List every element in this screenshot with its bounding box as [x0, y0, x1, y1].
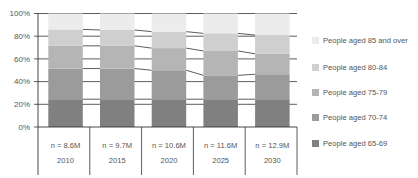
bar-2025 — [203, 14, 238, 128]
bar-2015 — [100, 14, 135, 128]
bar-segment — [48, 46, 83, 69]
bar-2010 — [48, 14, 83, 128]
bar-segment — [255, 14, 290, 36]
y-tick-label: 0% — [18, 123, 30, 132]
bar-segment — [100, 14, 135, 30]
bar-segment — [152, 48, 187, 70]
bar-segment — [152, 70, 187, 99]
x-axis-category-labels: n = 8.6M2010n = 9.7M2015n = 10.6M2020n =… — [51, 141, 290, 165]
legend-swatch — [312, 89, 319, 96]
y-tick-label: 60% — [14, 55, 30, 64]
y-tick-label: 40% — [14, 77, 30, 86]
legend-label: People aged 70-74 — [323, 113, 387, 122]
legend-swatch — [312, 37, 319, 44]
bar-segment — [203, 99, 238, 127]
bar-segment — [48, 69, 83, 100]
bar-segment — [255, 54, 290, 74]
legend: People aged 85 and over People aged 80-8… — [312, 0, 418, 178]
bar-segment — [255, 74, 290, 99]
bar-segment — [203, 14, 238, 34]
bar-2020 — [152, 14, 187, 128]
legend-item-80-84: People aged 80-84 — [312, 61, 387, 73]
bar-segment — [152, 32, 187, 48]
bar-segment — [152, 14, 187, 32]
legend-item-65-69: People aged 65-69 — [312, 137, 387, 149]
bar-segment — [203, 33, 238, 51]
bar-segment — [203, 75, 238, 99]
bar-segment — [100, 99, 135, 127]
y-axis-tick-labels: 0%20%40%60%80%100% — [10, 9, 30, 132]
bar-segment — [48, 14, 83, 30]
legend-swatch — [312, 64, 319, 71]
bar-segment — [152, 99, 187, 127]
bar-segment — [203, 51, 238, 75]
category-sublabel: n = 9.7M — [102, 141, 132, 150]
y-tick-label: 20% — [14, 100, 30, 109]
category-sublabel: n = 10.6M — [152, 141, 186, 150]
bar-segment — [100, 69, 135, 100]
category-sublabel: n = 12.9M — [255, 141, 289, 150]
category-label: 2020 — [160, 156, 177, 165]
bar-segment — [48, 29, 83, 45]
y-tick-label: 100% — [10, 9, 30, 18]
category-label: 2025 — [212, 156, 229, 165]
bar-2030 — [255, 14, 290, 128]
legend-item-70-74: People aged 70-74 — [312, 111, 387, 123]
legend-item-75-79: People aged 75-79 — [312, 86, 387, 98]
y-tick-label: 80% — [14, 32, 30, 41]
legend-label: People aged 65-69 — [323, 139, 387, 148]
bar-segment — [255, 99, 290, 127]
bar-segment — [255, 35, 290, 54]
bar-segment — [100, 30, 135, 46]
legend-label: People aged 85 and over — [323, 36, 408, 45]
category-sublabel: n = 11.6M — [204, 141, 237, 150]
legend-item-85-and-over: People aged 85 and over — [312, 34, 408, 46]
bars — [48, 14, 289, 128]
legend-swatch — [312, 140, 319, 147]
category-label: 2010 — [57, 156, 74, 165]
legend-label: People aged 80-84 — [323, 63, 387, 72]
category-label: 2015 — [109, 156, 126, 165]
category-label: 2030 — [264, 156, 281, 165]
bar-segment — [48, 99, 83, 127]
legend-swatch — [312, 114, 319, 121]
category-sublabel: n = 8.6M — [51, 141, 81, 150]
bar-segment — [100, 46, 135, 69]
legend-label: People aged 75-79 — [323, 88, 387, 97]
